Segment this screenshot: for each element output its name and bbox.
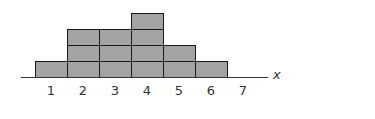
bar-block bbox=[131, 61, 164, 78]
histogram-chart: 1234567 x bbox=[0, 0, 375, 119]
x-tick-label: 6 bbox=[201, 83, 221, 98]
x-tick-label: 3 bbox=[105, 83, 125, 98]
bar-block bbox=[163, 61, 196, 78]
bar-block bbox=[195, 61, 228, 78]
bar-block bbox=[131, 45, 164, 62]
bar-block bbox=[67, 29, 100, 46]
x-axis-label: x bbox=[273, 67, 281, 82]
bar-block bbox=[99, 29, 132, 46]
x-tick-label: 4 bbox=[137, 83, 157, 98]
x-tick-label: 5 bbox=[169, 83, 189, 98]
x-tick-label: 7 bbox=[233, 83, 253, 98]
bar-block bbox=[131, 13, 164, 30]
bar-block bbox=[35, 61, 68, 78]
x-tick-label: 2 bbox=[73, 83, 93, 98]
bar-block bbox=[99, 61, 132, 78]
bar-block bbox=[131, 29, 164, 46]
bar-block bbox=[163, 45, 196, 62]
bar-block bbox=[67, 45, 100, 62]
x-axis-line bbox=[21, 77, 268, 78]
x-tick-label: 1 bbox=[41, 83, 61, 98]
bar-block bbox=[67, 61, 100, 78]
bar-block bbox=[99, 45, 132, 62]
